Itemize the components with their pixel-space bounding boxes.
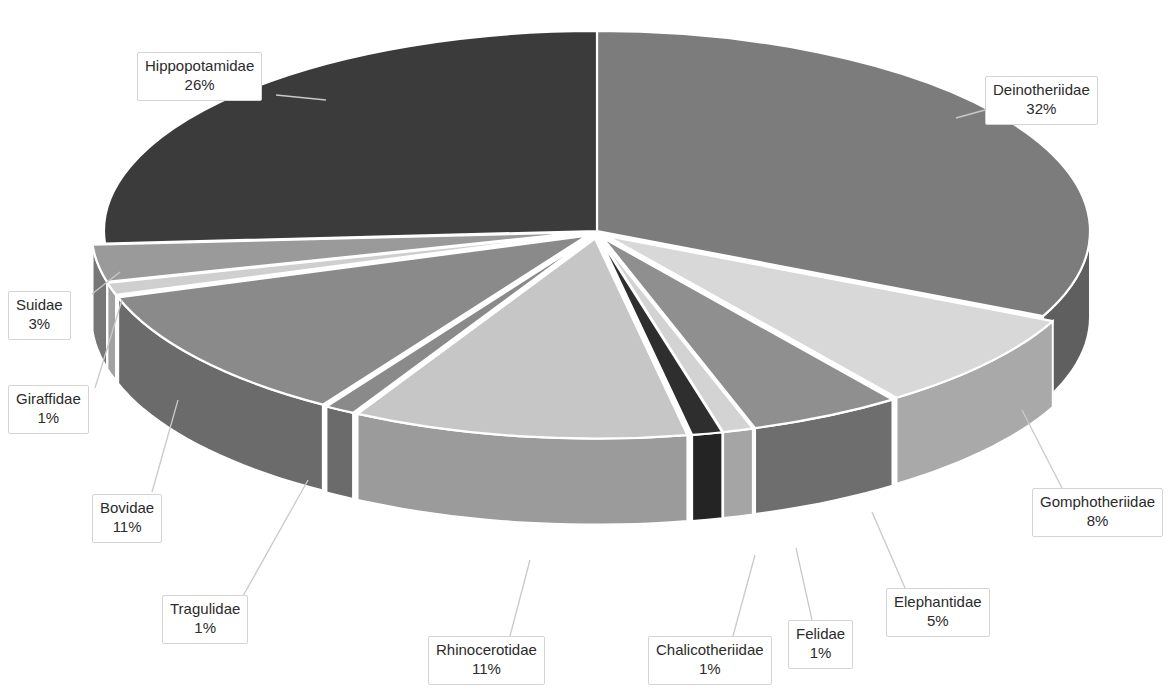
- data-label-percent-gomphotheriidae: 8%: [1040, 512, 1155, 531]
- data-label-percent-suidae: 3%: [16, 315, 63, 334]
- data-label-felidae[interactable]: Felidae1%: [788, 620, 853, 669]
- data-label-tragulidae[interactable]: Tragulidae1%: [162, 595, 248, 644]
- data-label-category-bovidae: Bovidae: [100, 499, 154, 516]
- data-label-elephantidae[interactable]: Elephantidae5%: [886, 588, 990, 637]
- data-label-category-tragulidae: Tragulidae: [170, 600, 240, 617]
- data-label-category-hippopotamidae: Hippopotamidae: [145, 57, 254, 74]
- data-label-category-felidae: Felidae: [796, 625, 845, 642]
- pie-slice-side-felidae: [723, 429, 753, 519]
- data-label-rhinocerotidae[interactable]: Rhinocerotidae11%: [428, 636, 545, 685]
- data-label-category-deinotheriidae: Deinotheriidae: [993, 81, 1090, 98]
- pie-slice-side-chalicotheriidae: [692, 432, 722, 521]
- data-label-category-elephantidae: Elephantidae: [894, 593, 982, 610]
- data-label-category-chalicotheriidae: Chalicotheriidae: [656, 641, 764, 658]
- data-label-deinotheriidae[interactable]: Deinotheriidae32%: [985, 76, 1098, 125]
- pie-slice-side-giraffidae: [107, 283, 116, 381]
- pie-chart-figure: Hippopotamidae26%Deinotheriidae32%Suidae…: [0, 0, 1176, 695]
- data-label-percent-bovidae: 11%: [100, 518, 154, 537]
- data-label-hippopotamidae[interactable]: Hippopotamidae26%: [137, 52, 262, 101]
- data-label-chalicotheriidae[interactable]: Chalicotheriidae1%: [648, 636, 772, 685]
- data-label-percent-elephantidae: 5%: [894, 612, 982, 631]
- data-label-category-rhinocerotidae: Rhinocerotidae: [436, 641, 537, 658]
- data-label-percent-chalicotheriidae: 1%: [656, 660, 764, 679]
- data-label-percent-hippopotamidae: 26%: [145, 76, 254, 95]
- data-label-bovidae[interactable]: Bovidae11%: [92, 494, 162, 543]
- data-label-category-giraffidae: Giraffidae: [16, 390, 81, 407]
- data-label-percent-felidae: 1%: [796, 644, 845, 663]
- pie-slice-deinotheriidae[interactable]: [597, 31, 1090, 316]
- data-label-percent-deinotheriidae: 32%: [993, 100, 1090, 119]
- data-label-percent-rhinocerotidae: 11%: [436, 660, 537, 679]
- pie-slice-side-tragulidae: [326, 406, 353, 498]
- data-label-giraffidae[interactable]: Giraffidae1%: [8, 385, 89, 434]
- data-label-suidae[interactable]: Suidae3%: [8, 291, 71, 340]
- data-label-category-gomphotheriidae: Gomphotheriidae: [1040, 493, 1155, 510]
- data-label-percent-giraffidae: 1%: [16, 409, 81, 428]
- data-label-category-suidae: Suidae: [16, 296, 63, 313]
- data-label-percent-tragulidae: 1%: [170, 619, 240, 638]
- data-label-gomphotheriidae[interactable]: Gomphotheriidae8%: [1032, 488, 1163, 537]
